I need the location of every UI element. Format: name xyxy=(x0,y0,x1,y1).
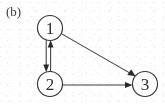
edge-1-to-2 xyxy=(43,40,49,72)
edge-1-to-3-line xyxy=(61,34,131,74)
edge-1-to-3 xyxy=(61,34,135,77)
edge-2-to-3-arrowhead xyxy=(125,82,133,88)
edge-2-to-1 xyxy=(48,40,54,72)
node-3[interactable]: 3 xyxy=(133,72,158,97)
edge-2-to-3 xyxy=(63,82,133,88)
node-2[interactable]: 2 xyxy=(38,72,63,97)
node-1-label: 1 xyxy=(46,19,55,38)
node-1[interactable]: 1 xyxy=(38,16,63,41)
directed-graph-canvas: (b) xyxy=(0,0,165,104)
node-3-label: 3 xyxy=(141,75,150,94)
panel-label: (b) xyxy=(6,4,21,19)
figure-panel-b: (b) xyxy=(0,0,165,104)
node-2-label: 2 xyxy=(46,75,55,94)
